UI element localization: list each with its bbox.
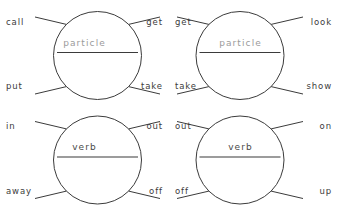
spoke-label-top-right: on [320, 122, 332, 131]
spoke-label-bottom-right: off [149, 187, 163, 196]
spoke-top-right [271, 122, 303, 129]
spoke-label-top-left: out [175, 122, 192, 131]
spoke-label-bottom-right: take [141, 82, 163, 91]
spoke-top-right [271, 17, 303, 24]
wheel-panel: particle get take look show [169, 0, 338, 107]
wheel-circle [196, 12, 284, 100]
spoke-label-bottom-left: put [6, 82, 23, 91]
wheel-circle [54, 12, 142, 100]
center-label: verb [143, 143, 338, 152]
spoke-bottom-right [271, 87, 303, 94]
spoke-bottom-left [35, 191, 66, 198]
spoke-label-top-right: get [146, 18, 163, 27]
wheel-panel: particle call put get take [0, 0, 169, 107]
spoke-label-top-right: out [146, 122, 163, 131]
spoke-label-top-left: call [6, 18, 24, 27]
spoke-label-bottom-right: show [306, 82, 332, 91]
spoke-bottom-left [35, 87, 66, 94]
wheel-graphic [169, 108, 338, 215]
spoke-label-top-right: look [311, 18, 332, 27]
wheel-circle [196, 116, 284, 204]
wheel-graphic [0, 108, 169, 215]
wheel-panel: verb in away out off [0, 108, 169, 215]
wheel-panel: verb out off on up [169, 108, 338, 215]
diagram-canvas: particle call put get take particle get … [0, 0, 338, 215]
spoke-label-top-left: get [175, 18, 192, 27]
spoke-label-bottom-right: up [319, 187, 332, 196]
center-label: particle [143, 39, 338, 48]
spoke-top-left [35, 17, 66, 24]
spoke-label-bottom-left: off [175, 187, 189, 196]
spoke-label-bottom-left: away [6, 187, 32, 196]
spoke-label-top-left: in [6, 122, 16, 131]
spoke-label-bottom-left: take [175, 82, 197, 91]
spoke-top-left [35, 122, 66, 129]
wheel-circle [54, 116, 142, 204]
spoke-bottom-right [271, 191, 303, 198]
